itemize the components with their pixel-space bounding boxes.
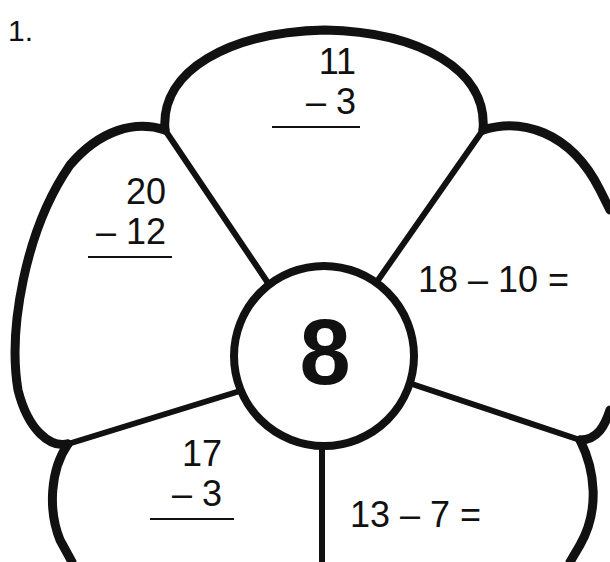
petal-lower-right-outline — [570, 440, 593, 562]
petal-upper-right-outline-lower — [580, 410, 610, 440]
center-answer: 8 — [265, 306, 385, 398]
petal-upper-left-problem: 20 – 12 — [88, 172, 172, 258]
petal-upper-right-problem: 18 – 10 = — [418, 262, 569, 298]
petal-lower-left-outline — [52, 444, 72, 562]
spoke-right — [412, 384, 580, 440]
minuend: 11 — [272, 42, 360, 82]
minuend: 20 — [88, 172, 172, 212]
answer-line — [272, 126, 360, 128]
answer-line — [150, 518, 234, 520]
petal-lower-left-problem: 17 – 3 — [150, 434, 234, 520]
minuend: 17 — [150, 434, 234, 474]
math-flower-worksheet: 1. 8 11 – 3 20 – 12 18 – 10 = 17 – 3 13 … — [0, 0, 610, 562]
answer-line — [88, 256, 172, 258]
subtrahend: – 12 — [88, 212, 172, 252]
petal-upper-right-outline — [483, 126, 610, 210]
petal-lower-right-problem: 13 – 7 = — [350, 497, 481, 533]
petal-top-problem: 11 – 3 — [272, 42, 360, 128]
subtrahend: – 3 — [150, 474, 234, 514]
problem-number: 1. — [8, 16, 33, 46]
spoke-top-left — [165, 130, 268, 283]
subtrahend: – 3 — [272, 82, 360, 122]
